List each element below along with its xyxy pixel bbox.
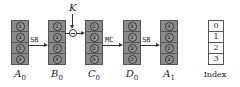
label-base: D — [126, 68, 134, 79]
cell: ① — [161, 32, 177, 43]
column-d0: ④ ① ③ ② — [123, 20, 141, 65]
arrow-head-icon — [44, 43, 48, 47]
key-arrow-line — [72, 14, 73, 25]
circled-number: ② — [165, 44, 174, 53]
cell: ③ — [124, 43, 140, 54]
circled-number: ② — [128, 55, 137, 64]
circled-number: ④ — [16, 55, 25, 64]
arrow-head-icon — [156, 43, 160, 47]
arrow-head-icon — [119, 43, 123, 47]
circled-number: ① — [90, 22, 99, 31]
circled-number: ③ — [16, 33, 25, 42]
label-sub: 0 — [21, 74, 25, 82]
circled-number: ② — [90, 44, 99, 53]
cell: ② — [161, 43, 177, 54]
circled-number: ④ — [53, 55, 62, 64]
op-sb1: SB — [30, 36, 38, 44]
index-cell: 1 — [209, 32, 223, 43]
cell: ③ — [86, 32, 102, 43]
cell: ② — [124, 54, 140, 64]
arrow-head-icon — [81, 31, 85, 35]
circled-number: ④ — [165, 22, 174, 31]
circled-number: ③ — [165, 55, 174, 64]
op-sb2: SB — [142, 36, 150, 44]
circled-number: ① — [53, 22, 62, 31]
label-sub: 0 — [58, 74, 62, 82]
cell: ③ — [12, 32, 28, 43]
circled-number: ③ — [53, 33, 62, 42]
arrow-sb2-line — [140, 45, 156, 46]
arrow-down-icon — [70, 25, 74, 29]
cell: ③ — [161, 54, 177, 64]
cell: ④ — [86, 54, 102, 64]
cell: ③ — [49, 32, 65, 43]
cell: ① — [49, 21, 65, 32]
index-cell: 0 — [209, 21, 223, 32]
circled-number: ① — [128, 33, 137, 42]
cell: ② — [49, 43, 65, 54]
index-cell: 3 — [209, 54, 223, 64]
index-column: 0 1 2 3 — [208, 20, 224, 65]
label-a0: A0 — [8, 68, 32, 82]
circled-number: ① — [165, 33, 174, 42]
cell: ① — [86, 21, 102, 32]
label-c0: C0 — [82, 68, 106, 82]
key-label: K — [69, 2, 76, 13]
circled-number: ④ — [90, 55, 99, 64]
cell: ② — [86, 43, 102, 54]
index-label: Index — [200, 70, 230, 79]
cell: ② — [12, 43, 28, 54]
column-a0: ① ③ ② ④ — [11, 20, 29, 65]
arrow-sb1-line — [28, 45, 44, 46]
arrow-mc-line — [102, 45, 119, 46]
circled-number: ① — [16, 22, 25, 31]
label-sub: 0 — [96, 74, 100, 82]
label-base: C — [88, 68, 96, 79]
cell: ④ — [124, 21, 140, 32]
label-sub: 0 — [134, 74, 138, 82]
cell: ④ — [12, 54, 28, 64]
circled-number: ③ — [128, 44, 137, 53]
column-a1: ④ ① ② ③ — [160, 20, 178, 65]
label-b0: B0 — [45, 68, 69, 82]
column-b0: ① ③ ② ④ — [48, 20, 66, 65]
circled-number: ④ — [128, 22, 137, 31]
circled-number: ② — [16, 44, 25, 53]
column-c0: ① ③ ② ④ — [85, 20, 103, 65]
op-mc: MC — [105, 36, 113, 44]
label-sub: 1 — [170, 74, 174, 82]
label-d0: D0 — [120, 68, 144, 82]
cell: ① — [12, 21, 28, 32]
xor-icon — [69, 29, 77, 37]
cell: ④ — [49, 54, 65, 64]
cell: ④ — [161, 21, 177, 32]
label-a1: A1 — [157, 68, 181, 82]
index-cell: 2 — [209, 43, 223, 54]
circled-number: ③ — [90, 33, 99, 42]
cell: ① — [124, 32, 140, 43]
circled-number: ② — [53, 44, 62, 53]
